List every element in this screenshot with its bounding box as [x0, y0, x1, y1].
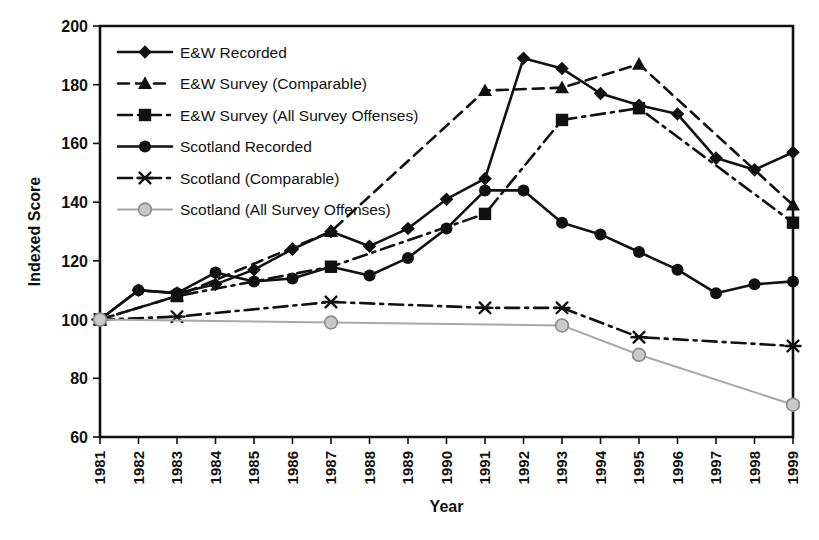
marker-circle	[325, 261, 337, 273]
x-tick-label: 1998	[746, 451, 763, 484]
y-tick-label: 140	[61, 194, 88, 211]
legend-item[interactable]: Scotland (All Survey Offenses)	[118, 201, 391, 218]
marker-circle	[595, 228, 607, 240]
legend-label: Scotland (All Survey Offenses)	[180, 201, 391, 218]
marker-circle-open-shape	[325, 316, 338, 329]
marker-circle	[248, 275, 260, 287]
marker-circle-open	[787, 398, 800, 411]
marker-diamond	[555, 62, 569, 76]
marker-circle	[139, 141, 151, 153]
y-axis-title: Indexed Score	[26, 177, 43, 286]
y-tick-label: 60	[70, 429, 88, 446]
marker-square	[787, 216, 799, 228]
chart-container: 6080100120140160180200Indexed Score19811…	[0, 0, 819, 540]
marker-circle	[441, 223, 453, 235]
marker-square	[139, 109, 151, 121]
x-tick-label: 1984	[207, 450, 224, 484]
legend-label: Scotland (Comparable)	[180, 170, 339, 187]
series-1[interactable]	[93, 51, 800, 326]
legend-item[interactable]: E&W Recorded	[118, 44, 287, 61]
x-tick-label: 1981	[91, 451, 108, 484]
marker-circle	[787, 275, 799, 287]
x-tick-label: 1995	[630, 451, 647, 484]
x-tick-label: 1987	[322, 451, 339, 484]
x-tick-label: 1997	[707, 451, 724, 484]
y-tick-label: 120	[61, 253, 88, 270]
marker-circle	[287, 272, 299, 284]
marker-circle-open-shape	[787, 398, 800, 411]
y-tick-label: 180	[61, 77, 88, 94]
marker-circle	[672, 264, 684, 276]
marker-asterisk	[324, 297, 339, 308]
x-tick-label: 1990	[438, 451, 455, 484]
marker-diamond	[517, 51, 531, 65]
x-tick-label: 1993	[553, 451, 570, 484]
marker-circle	[364, 270, 376, 282]
marker-square	[633, 102, 645, 114]
marker-diamond	[478, 172, 492, 186]
marker-circle	[710, 287, 722, 299]
marker-circle-open-shape	[94, 313, 107, 326]
legend-label: E&W Recorded	[180, 44, 287, 61]
x-tick-label: 1999	[784, 451, 801, 484]
marker-triangle	[632, 57, 646, 70]
series-path	[100, 64, 793, 319]
series-2[interactable]	[93, 57, 800, 325]
x-tick-label: 1994	[592, 450, 609, 484]
marker-circle-open	[325, 316, 338, 329]
marker-circle	[171, 287, 183, 299]
marker-circle-open-shape	[556, 319, 569, 332]
series-path	[100, 58, 793, 319]
y-tick-label: 80	[70, 370, 88, 387]
x-tick-label: 1992	[515, 451, 532, 484]
marker-asterisk	[478, 302, 493, 313]
x-tick-label: 1985	[245, 451, 262, 484]
marker-circle-open	[94, 313, 107, 326]
x-axis: 1981198219831984198519861987198819891990…	[91, 437, 801, 484]
marker-circle	[556, 217, 568, 229]
legend-item[interactable]: Scotland (Comparable)	[118, 170, 339, 187]
marker-diamond	[594, 87, 608, 101]
legend-label: E&W Survey (Comparable)	[180, 75, 367, 92]
marker-asterisk	[138, 173, 153, 184]
x-tick-label: 1996	[669, 451, 686, 484]
marker-asterisk	[555, 302, 570, 313]
marker-diamond	[786, 145, 800, 159]
marker-circle	[633, 246, 645, 258]
marker-circle-open	[556, 319, 569, 332]
marker-square	[556, 114, 568, 126]
x-tick-label: 1986	[284, 451, 301, 484]
legend-item[interactable]: E&W Survey (All Survey Offenses)	[118, 107, 418, 124]
x-tick-label: 1989	[399, 451, 416, 484]
marker-circle	[479, 184, 491, 196]
marker-circle-open	[633, 348, 646, 361]
x-axis-title: Year	[430, 498, 464, 515]
marker-circle-open-shape	[139, 203, 152, 216]
marker-diamond	[138, 45, 152, 59]
marker-square	[479, 208, 491, 220]
y-tick-label: 160	[61, 135, 88, 152]
marker-circle	[749, 278, 761, 290]
marker-circle	[210, 267, 222, 279]
marker-circle-open-shape	[633, 348, 646, 361]
x-tick-label: 1982	[130, 451, 147, 484]
y-axis: 6080100120140160180200	[61, 18, 100, 446]
series-path	[100, 320, 793, 405]
legend-label: E&W Survey (All Survey Offenses)	[180, 107, 418, 124]
x-tick-label: 1991	[476, 451, 493, 484]
x-tick-label: 1988	[361, 451, 378, 484]
legend-label: Scotland Recorded	[180, 138, 312, 155]
marker-circle-open	[139, 203, 152, 216]
legend-item[interactable]: Scotland Recorded	[118, 138, 312, 155]
marker-circle	[133, 284, 145, 296]
marker-circle	[518, 184, 530, 196]
x-tick-label: 1983	[168, 451, 185, 484]
series-6[interactable]	[94, 313, 800, 411]
line-chart: 6080100120140160180200Indexed Score19811…	[0, 0, 819, 540]
marker-asterisk	[632, 332, 647, 343]
legend-item[interactable]: E&W Survey (Comparable)	[118, 75, 367, 92]
marker-circle	[402, 252, 414, 264]
y-tick-label: 100	[61, 312, 88, 329]
y-tick-label: 200	[61, 18, 88, 35]
